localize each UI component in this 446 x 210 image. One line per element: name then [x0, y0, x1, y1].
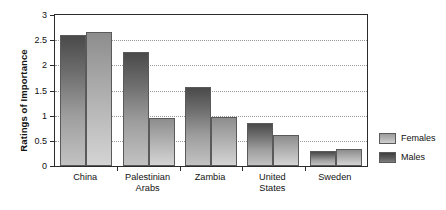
- y-axis-tick: [50, 166, 55, 167]
- y-axis-tick: [50, 40, 55, 41]
- x-axis-label-line: China: [54, 172, 116, 183]
- bar-males-zambia: [185, 87, 211, 166]
- y-axis-tick: [50, 15, 55, 16]
- x-axis-tick: [242, 166, 243, 171]
- x-axis-label-zambia: Zambia: [179, 172, 241, 183]
- y-axis-tick: [50, 91, 55, 92]
- legend-item-females: Females: [379, 132, 443, 144]
- x-axis-label-line: Arabs: [116, 183, 178, 194]
- x-axis-label-china: China: [54, 172, 116, 183]
- x-axis-label-united-states: UnitedStates: [241, 172, 303, 194]
- legend-item-males: Males: [379, 151, 443, 163]
- legend-label: Males: [401, 152, 425, 162]
- x-axis-label-line: Zambia: [179, 172, 241, 183]
- bar-females-united-states: [273, 135, 299, 166]
- bar-females-sweden: [336, 149, 362, 166]
- bar-males-palestinian-arabs: [123, 52, 149, 166]
- y-axis-tick-label: 2.5: [34, 35, 47, 45]
- chart-legend: FemalesMales: [379, 132, 443, 170]
- y-axis-tick-label: 0: [42, 161, 47, 171]
- bar-females-china: [86, 32, 112, 166]
- x-axis-label-line: United: [241, 172, 303, 183]
- bar-males-united-states: [247, 123, 273, 166]
- x-axis-tick: [180, 166, 181, 171]
- x-axis-label-line: Sweden: [304, 172, 366, 183]
- y-axis-tick: [50, 65, 55, 66]
- x-axis-tick: [305, 166, 306, 171]
- legend-label: Females: [401, 133, 436, 143]
- y-axis-tick-label: 3: [42, 10, 47, 20]
- y-axis-tick-label: 2: [42, 60, 47, 70]
- bar-males-sweden: [310, 151, 336, 166]
- bar-females-zambia: [211, 117, 237, 166]
- bar-chart-figure: Ratings of Importance 00.511.522.53 Fema…: [0, 0, 446, 210]
- x-axis-label-line: Palestinian: [116, 172, 178, 183]
- legend-swatch-males: [379, 152, 396, 163]
- bar-females-palestinian-arabs: [149, 118, 175, 166]
- y-axis-tick-label: 1: [42, 111, 47, 121]
- y-axis-tick: [50, 141, 55, 142]
- y-axis-title: Ratings of Importance: [18, 26, 29, 176]
- x-axis-label-palestinian-arabs: PalestinianArabs: [116, 172, 178, 194]
- x-axis-tick: [117, 166, 118, 171]
- legend-swatch-females: [379, 133, 396, 144]
- y-axis-tick: [50, 116, 55, 117]
- plot-area: 00.511.522.53: [54, 14, 368, 167]
- y-axis-tick-label: 1.5: [34, 86, 47, 96]
- y-axis-tick-label: 0.5: [34, 136, 47, 146]
- x-axis-label-sweden: Sweden: [304, 172, 366, 183]
- x-axis-label-line: States: [241, 183, 303, 194]
- plot-inner: [55, 15, 367, 166]
- bar-males-china: [60, 35, 86, 166]
